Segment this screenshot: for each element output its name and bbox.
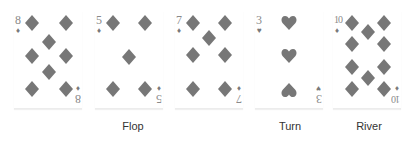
rank-label: 7 — [236, 93, 242, 105]
diamond-icon — [218, 81, 232, 97]
diamond-icon — [186, 15, 200, 31]
diamond-icon — [345, 15, 359, 31]
diamond-icon: ♦ — [16, 27, 20, 35]
heart-icon: ♥ — [257, 27, 262, 35]
diamond-icon — [345, 36, 359, 52]
diamond-icon — [138, 81, 152, 97]
diamond-icon — [377, 59, 391, 75]
rank-label: 8 — [15, 14, 21, 26]
diamond-icon — [345, 59, 359, 75]
diamond-icon: ♦ — [177, 27, 181, 35]
card-3-hearts: 3 ♥ ♥ 3 — [255, 11, 323, 109]
diamond-icon — [25, 48, 39, 64]
diamond-icon — [377, 15, 391, 31]
rank-label: 10 — [334, 14, 342, 26]
diamond-icon — [377, 36, 391, 52]
diamond-icon — [59, 15, 73, 31]
diamond-icon — [25, 15, 39, 31]
rank-label: 5 — [96, 14, 102, 26]
heart-icon — [281, 15, 297, 31]
heart-icon: ♥ — [316, 84, 321, 92]
rank-label: 7 — [176, 14, 182, 26]
diamond-icon — [59, 81, 73, 97]
flop-label: Flop — [122, 120, 143, 132]
heart-icon — [281, 48, 297, 64]
rank-label: 3 — [256, 14, 262, 26]
rank-label: 8 — [75, 93, 81, 105]
card-5-diamonds: 5 ♦ ♦ 5 — [95, 11, 163, 109]
card-8-diamonds: 8 ♦ ♦ 8 — [14, 11, 82, 109]
diamond-icon — [25, 81, 39, 97]
diamond-icon: ♦ — [157, 84, 161, 92]
diamond-icon — [361, 24, 375, 40]
diamond-icon — [59, 48, 73, 64]
diamond-icon — [218, 47, 232, 63]
diamond-icon: ♦ — [237, 84, 241, 92]
heart-icon — [281, 82, 297, 98]
diamond-icon — [345, 81, 359, 97]
diamond-icon: ♦ — [395, 84, 399, 92]
diamond-icon: ♦ — [97, 27, 101, 35]
diamond-icon — [106, 81, 120, 97]
diamond-icon — [42, 34, 56, 50]
turn-label: Turn — [279, 120, 301, 132]
diamond-icon — [186, 81, 200, 97]
diamond-icon: ♦ — [76, 84, 80, 92]
diamond-icon — [138, 15, 152, 31]
diamond-icon: ♦ — [335, 27, 339, 35]
card-7-diamonds: 7 ♦ ♦ 7 — [175, 11, 243, 109]
diamond-icon — [361, 70, 375, 86]
diamond-icon — [186, 47, 200, 63]
diamond-icon — [202, 30, 216, 46]
rank-label: 5 — [156, 93, 162, 105]
card-10-diamonds: 10 ♦ ♦ 10 — [333, 11, 401, 109]
diamond-icon — [122, 49, 136, 65]
river-label: River — [356, 120, 382, 132]
diamond-icon — [218, 15, 232, 31]
diamond-icon — [42, 64, 56, 80]
rank-label: 3 — [316, 93, 322, 105]
rank-label: 10 — [392, 93, 400, 105]
diamond-icon — [106, 15, 120, 31]
diamond-icon — [377, 81, 391, 97]
